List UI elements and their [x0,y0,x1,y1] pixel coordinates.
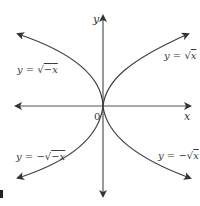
curve-sqrt-x [103,34,188,106]
label-neg-sqrt-neg-x: y = −√−x [15,151,66,162]
curve-neg-sqrt-neg-x [18,106,103,178]
y-axis-label: y [92,13,100,26]
curve-neg-sqrt-x [103,106,190,178]
x-axis-label: x [184,110,191,123]
chart-canvas: y x 0 y = √−x y = √x y = −√−x y = −√x [0,0,200,206]
edge-mark [0,190,3,198]
label-sqrt-neg-x: y = √−x [16,64,58,75]
label-neg-sqrt-x: y = −√x [157,150,199,161]
origin-label: 0 [94,111,100,122]
label-sqrt-x: y = √x [163,50,197,61]
